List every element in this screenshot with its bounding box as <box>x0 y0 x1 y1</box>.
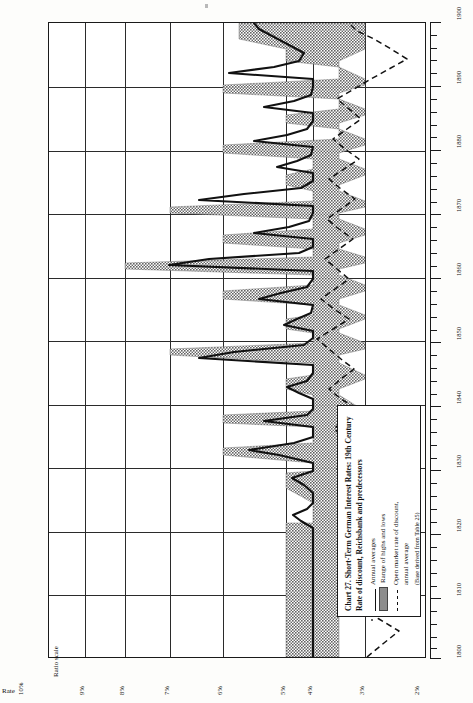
year-tickmark-minor <box>430 522 437 523</box>
year-tickmark-1830 <box>430 470 441 471</box>
page-speck <box>205 4 208 8</box>
legend-label-open-market-line2: annual average <box>402 413 411 585</box>
year-tickmark-minor <box>430 573 437 574</box>
year-tickmark-minor <box>430 586 437 587</box>
year-tickmark-minor <box>430 266 437 267</box>
rate-tick-10: 10% <box>17 682 24 695</box>
year-tickmark-minor <box>430 35 437 36</box>
year-tickmark-minor <box>430 291 437 292</box>
year-tickmark-minor <box>430 560 437 561</box>
legend-label-range: Range of highs and lows <box>379 514 388 583</box>
year-tickmark-minor <box>430 432 437 433</box>
year-label-1840: 1840 <box>455 391 462 404</box>
chart-title: Chart 27. Short-Term German Interest Rat… <box>344 413 354 611</box>
year-label-1860: 1860 <box>455 263 462 276</box>
year-label-1830: 1830 <box>455 455 462 468</box>
year-tickmark-minor <box>430 112 437 113</box>
year-tickmark-minor <box>430 368 437 369</box>
rate-axis-title-label: Rate <box>2 687 15 695</box>
page-mark <box>371 619 373 621</box>
plot-area: Chart 27. Short-Term German Interest Rat… <box>48 22 426 658</box>
year-tickmark-minor <box>430 317 437 318</box>
year-tickmark-minor <box>430 624 437 625</box>
year-label-1890: 1890 <box>455 71 462 84</box>
legend-item-open-market: Open market rate of discount, <box>392 413 401 611</box>
year-tickmark-minor <box>430 483 437 484</box>
year-tickmark-1860 <box>430 278 441 279</box>
year-tickmark-minor <box>430 611 437 612</box>
year-tickmark-1880 <box>430 150 441 151</box>
rate-tick-8: 8% <box>118 686 125 695</box>
year-label-1800: 1800 <box>455 645 462 658</box>
year-tickmark-minor <box>430 99 437 100</box>
year-tickmark-1850 <box>430 342 441 343</box>
rate-tick-9: 9% <box>78 686 85 695</box>
year-tickmark-minor <box>430 445 437 446</box>
chart-figure: Chart 27. Short-Term German Interest Rat… <box>0 0 473 703</box>
year-tickmark-minor <box>430 137 437 138</box>
year-label-1880: 1880 <box>455 135 462 148</box>
range-band <box>125 23 365 657</box>
year-tickmark-minor <box>430 648 437 649</box>
chart-legend: Chart 27. Short-Term German Interest Rat… <box>337 405 421 617</box>
year-tickmark-1820 <box>430 534 441 535</box>
year-tickmark-minor <box>430 547 437 548</box>
rate-tick-6: 6% <box>216 686 223 695</box>
year-label-1900: 1900 <box>455 7 462 20</box>
year-tickmark-minor <box>430 394 437 395</box>
year-label-1870: 1870 <box>455 199 462 212</box>
year-tickmark-minor <box>430 637 437 638</box>
ratio-scale-note: Ratio scale <box>52 646 60 677</box>
year-tickmark-minor <box>430 355 437 356</box>
rate-tick-5: 5% <box>279 686 286 695</box>
year-tickmark-minor <box>430 48 437 49</box>
legend-swatch-solid-line-icon <box>375 589 376 611</box>
year-tickmark-minor <box>430 60 437 61</box>
year-tickmark-minor <box>430 381 437 382</box>
year-tickmark-minor <box>430 125 437 126</box>
rate-axis-title: Rate <box>2 687 15 695</box>
rate-tick-7: 7% <box>163 686 170 695</box>
year-tickmark-1890 <box>430 86 441 87</box>
year-tickmark-minor <box>430 189 437 190</box>
year-tickmark-minor <box>430 163 437 164</box>
year-tickmark-minor <box>430 240 437 241</box>
year-label-1850: 1850 <box>455 327 462 340</box>
year-tickmark-minor <box>430 509 437 510</box>
year-tickmark-minor <box>430 304 437 305</box>
year-tickmark-minor <box>430 202 437 203</box>
year-tickmark-1810 <box>430 598 441 599</box>
year-tickmark-1800 <box>430 658 441 659</box>
year-tickmark-1870 <box>430 214 441 215</box>
year-tickmark-minor <box>430 253 437 254</box>
rate-tick-3: 3% <box>358 686 365 695</box>
year-tickmark-1900 <box>430 22 441 23</box>
legend-item-annual-averages: Annual averages <box>369 413 378 611</box>
rate-tick-4: 4% <box>306 686 313 695</box>
legend-item-range: Range of highs and lows <box>379 413 388 611</box>
year-tickmark-minor <box>430 73 437 74</box>
year-tickmark-1840 <box>430 406 441 407</box>
year-tickmark-minor <box>430 496 437 497</box>
legend-swatch-band-icon <box>379 587 388 611</box>
year-label-1810: 1810 <box>455 583 462 596</box>
year-tickmark-minor <box>430 458 437 459</box>
legend-label-annual-averages: Annual averages <box>369 538 378 585</box>
year-tickmark-minor <box>430 419 437 420</box>
year-tickmark-minor <box>430 330 437 331</box>
year-axis-rail <box>430 22 431 658</box>
chart-subtitle: Rate of discount, Reichsbank and predece… <box>355 413 365 611</box>
year-tickmark-minor <box>430 227 437 228</box>
legend-swatch-dashed-line-icon <box>397 589 398 611</box>
year-label-1820: 1820 <box>455 519 462 532</box>
rate-tick-2: 2% <box>413 686 420 695</box>
legend-label-open-market: Open market rate of discount, <box>392 502 401 585</box>
year-tickmark-minor <box>430 176 437 177</box>
legend-content: Chart 27. Short-Term German Interest Rat… <box>338 406 422 618</box>
chart-source-note: (Base derived from Table 25) <box>413 413 421 585</box>
